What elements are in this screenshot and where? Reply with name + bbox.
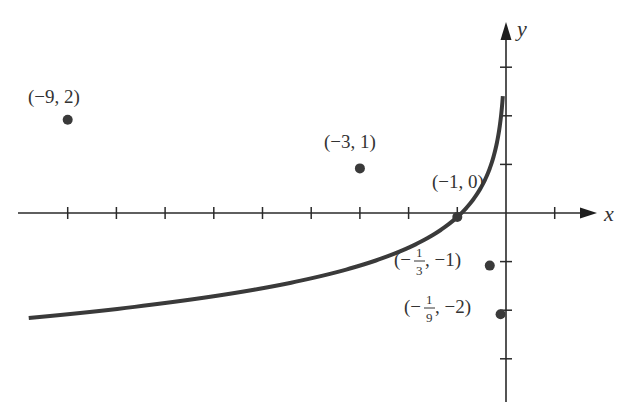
log-function-graph: x y (−9, 2) (−3, 1) (−1, 0) (− 1 3 , −1)… — [0, 0, 633, 414]
x-axis: x — [18, 201, 614, 226]
data-point-marker — [63, 115, 73, 125]
data-point-marker — [496, 309, 506, 319]
data-point-marker — [355, 163, 365, 173]
point-label-neg-third-neg1: (− 1 3 , −1) — [394, 245, 461, 278]
point-label-neg9-2: (−9, 2) — [28, 86, 80, 108]
point-label-neg3-1: (−3, 1) — [324, 131, 376, 153]
data-point-marker — [485, 261, 495, 271]
fraction-denominator: 9 — [426, 310, 433, 325]
x-axis-arrow-icon — [580, 208, 597, 219]
fraction-numerator: 1 — [416, 245, 423, 260]
fraction-numerator: 1 — [426, 292, 433, 307]
label-prefix: (− — [394, 249, 411, 271]
log-curve — [29, 96, 503, 318]
y-axis-label: y — [515, 16, 527, 41]
label-suffix: , −2) — [435, 296, 471, 318]
x-axis-label: x — [603, 201, 614, 226]
fraction-denominator: 3 — [416, 263, 423, 278]
data-point-marker — [452, 212, 462, 222]
label-suffix: , −1) — [425, 249, 461, 271]
point-label-neg-ninth-neg2: (− 1 9 , −2) — [404, 292, 471, 325]
data-points — [63, 115, 506, 319]
y-axis-arrow-icon — [501, 22, 512, 40]
point-label-neg1-0: (−1, 0) — [432, 171, 484, 193]
y-axis: y — [500, 16, 527, 402]
label-prefix: (− — [404, 296, 421, 318]
